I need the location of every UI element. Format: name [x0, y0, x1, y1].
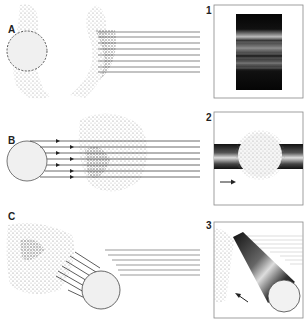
beam-lines — [105, 250, 200, 275]
label-b: B — [8, 135, 15, 146]
label-c: C — [8, 211, 15, 222]
panel-2: 2 — [206, 112, 303, 205]
row-c: C — [6, 211, 200, 309]
panel-1: 1 — [206, 5, 303, 98]
dashed-circle — [7, 31, 47, 71]
stipple-mass — [6, 223, 74, 294]
tube-end-circle — [268, 280, 300, 312]
label-a: A — [8, 24, 15, 35]
panel-number-2: 2 — [206, 112, 212, 123]
diagram-canvas: A 1 B — [0, 0, 305, 323]
panel-3: 3 — [206, 220, 303, 318]
solid-circle — [82, 271, 120, 309]
row-b: B — [7, 114, 200, 192]
row-a: A — [7, 4, 200, 98]
panel-number-1: 1 — [206, 5, 212, 16]
dark-band-image — [236, 14, 282, 90]
stipple-sphere — [235, 130, 285, 180]
stipple-region — [70, 5, 108, 98]
panel-number-3: 3 — [206, 220, 212, 231]
